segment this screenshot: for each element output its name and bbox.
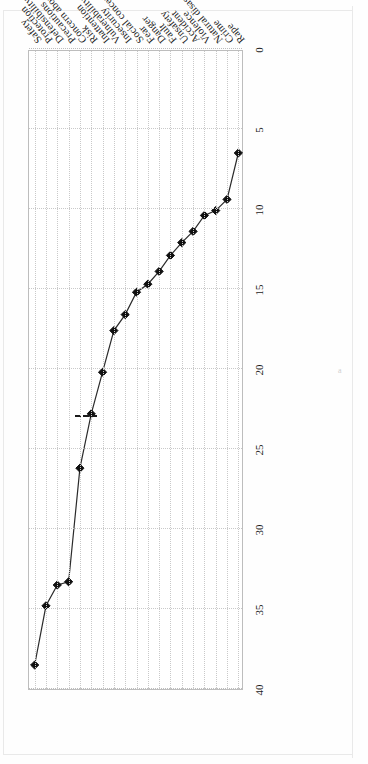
line-chart: 0510152025303540 SafetyProtectionDefensi… (0, 0, 368, 764)
category-gridline (193, 51, 194, 689)
value-tick-label: 15 (253, 285, 265, 296)
value-tick-label: 20 (253, 365, 265, 376)
value-tick-label: 25 (253, 445, 265, 456)
category-gridline (80, 51, 81, 689)
category-gridline (182, 51, 183, 689)
category-gridline (57, 51, 58, 689)
category-gridline (114, 51, 115, 689)
value-gridline (29, 208, 242, 209)
value-tick-label: 5 (253, 127, 265, 133)
value-gridline (29, 448, 242, 449)
category-gridline (125, 51, 126, 689)
scanned-figure-page: a 0510152025303540 SafetyProtectionDefen… (0, 0, 368, 764)
threshold-reference-line (75, 415, 98, 417)
category-gridline (103, 51, 104, 689)
value-gridline (29, 368, 242, 369)
category-gridline (35, 51, 36, 689)
value-gridline (29, 288, 242, 289)
value-gridline (29, 528, 242, 529)
value-gridline (29, 128, 242, 129)
category-gridline (159, 51, 160, 689)
value-tick-label: 35 (253, 605, 265, 616)
value-tick-label: 30 (253, 525, 265, 536)
value-tick-label: 40 (253, 685, 265, 696)
value-tick-label: 10 (253, 205, 265, 216)
plot-area (28, 50, 243, 690)
value-tick-label: 0 (253, 47, 265, 53)
category-gridline (216, 51, 217, 689)
rotated-figure-stage: 0510152025303540 SafetyProtectionDefensi… (0, 0, 368, 764)
category-gridline (227, 51, 228, 689)
category-gridline (91, 51, 92, 689)
value-gridline (29, 688, 242, 689)
category-gridline (46, 51, 47, 689)
category-gridline (148, 51, 149, 689)
category-gridline (170, 51, 171, 689)
category-gridline (137, 51, 138, 689)
category-gridline (238, 51, 239, 689)
category-gridline (69, 51, 70, 689)
value-gridline (29, 608, 242, 609)
value-gridline (29, 48, 242, 49)
category-gridline (204, 51, 205, 689)
